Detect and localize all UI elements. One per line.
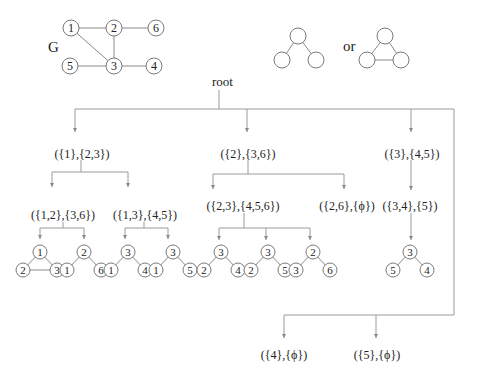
node-id: 5 bbox=[390, 264, 396, 276]
graph-node: 3 bbox=[166, 245, 180, 259]
graph-node: 2 bbox=[77, 245, 91, 259]
node-id: 3 bbox=[170, 246, 176, 258]
graph-g: G 126534 bbox=[48, 20, 164, 74]
arrow-down-icon bbox=[38, 235, 42, 239]
graph-node: 5 bbox=[62, 58, 78, 74]
subgraph-path: 324 bbox=[197, 245, 245, 277]
enumeration-tree-diagram: G 126534 or root bbox=[0, 0, 478, 383]
node-id: 2 bbox=[81, 246, 87, 258]
subgraph-path: 354 bbox=[386, 245, 434, 277]
arrow-down-icon bbox=[217, 236, 221, 240]
node-id: 3 bbox=[265, 246, 271, 258]
graph-node bbox=[393, 52, 409, 68]
graph-node bbox=[359, 52, 375, 68]
node-id: 4 bbox=[151, 59, 157, 73]
subgraph-instances: 123216314315324325236354 bbox=[16, 245, 434, 277]
node-label-4-phi: ({4},{ϕ}) bbox=[261, 348, 307, 362]
arrow-down-icon bbox=[374, 334, 378, 338]
arrow-down-icon bbox=[126, 183, 130, 187]
node-id: 1 bbox=[108, 264, 114, 276]
node-id: 5 bbox=[282, 264, 288, 276]
graph-node: 6 bbox=[148, 20, 164, 36]
node-label-12-36: ({1,2},{3,6}) bbox=[31, 208, 95, 222]
node-label-34-5: ({3,4},{5}) bbox=[382, 199, 437, 213]
level2-labels: ({1,2},{3,6}) ({1,3},{4,5}) ({2,3},{4,5,… bbox=[31, 199, 438, 222]
node-id: 2 bbox=[248, 264, 254, 276]
subgraph-path: 325 bbox=[244, 245, 292, 277]
node-id: 2 bbox=[111, 21, 117, 35]
level1-labels: ({1},{2,3}) ({2},{3,6}) ({3},{4,5}) bbox=[54, 147, 439, 161]
arrow-down-icon bbox=[409, 128, 413, 132]
arrow-down-icon bbox=[409, 236, 413, 240]
leaf-labels: ({4},{ϕ}) ({5},{ϕ}) bbox=[261, 348, 400, 362]
graph-node: 3 bbox=[261, 245, 275, 259]
subgraph-path: 315 bbox=[149, 245, 197, 277]
graph-node bbox=[377, 28, 393, 44]
node-label-2-36: ({2},{3,6}) bbox=[220, 147, 275, 161]
arrow-down-icon bbox=[245, 128, 249, 132]
node-id: 3 bbox=[407, 246, 413, 258]
node-id: 5 bbox=[187, 264, 193, 276]
node-id: 3 bbox=[54, 264, 60, 276]
arrow-down-icon bbox=[123, 235, 127, 239]
arrow-down-icon bbox=[82, 235, 86, 239]
graph-node: 2 bbox=[106, 20, 122, 36]
node-id: 1 bbox=[68, 21, 74, 35]
graph-node bbox=[274, 52, 290, 68]
arrow-down-icon bbox=[166, 235, 170, 239]
node-label-13-45: ({1,3},{4,5}) bbox=[113, 208, 177, 222]
graph-node: 4 bbox=[420, 263, 434, 277]
node-id: 2 bbox=[20, 264, 26, 276]
node-id: 5 bbox=[67, 59, 73, 73]
arrow-down-icon bbox=[409, 186, 413, 190]
graph-node bbox=[290, 28, 306, 44]
arrow-down-icon bbox=[264, 236, 268, 240]
graph-node: 3 bbox=[289, 263, 303, 277]
subgraph-path: 314 bbox=[104, 245, 152, 277]
graph-node: 3 bbox=[403, 245, 417, 259]
node-label-1-23: ({1},{2,3}) bbox=[54, 147, 109, 161]
graph-node: 3 bbox=[121, 245, 135, 259]
subgraph-path: 236 bbox=[289, 245, 337, 277]
graph-node: 5 bbox=[386, 263, 400, 277]
arrow-down-icon bbox=[342, 185, 346, 189]
node-label-26-phi: ({2,6},{ϕ}) bbox=[319, 199, 374, 213]
node-id: 2 bbox=[201, 264, 207, 276]
subgraph-path: 216 bbox=[60, 245, 108, 277]
graph-node: 1 bbox=[60, 263, 74, 277]
graph-node: 1 bbox=[149, 263, 163, 277]
node-id: 6 bbox=[98, 264, 104, 276]
graph-node: 2 bbox=[16, 263, 30, 277]
subgraph-triangle: 123 bbox=[16, 245, 64, 277]
graph-node: 4 bbox=[146, 58, 162, 74]
arrow-down-icon bbox=[50, 183, 54, 187]
root-label: root bbox=[212, 74, 233, 89]
arrow-down-icon bbox=[211, 185, 215, 189]
graph-node: 2 bbox=[244, 263, 258, 277]
node-id: 4 bbox=[424, 264, 430, 276]
graph-node: 5 bbox=[183, 263, 197, 277]
graph-node: 6 bbox=[323, 263, 337, 277]
node-id: 3 bbox=[218, 246, 224, 258]
graph-node: 2 bbox=[197, 263, 211, 277]
graph-label: G bbox=[48, 39, 59, 55]
node-id: 3 bbox=[111, 59, 117, 73]
graph-node: 1 bbox=[104, 263, 118, 277]
node-id: 4 bbox=[142, 264, 148, 276]
node-id: 6 bbox=[153, 21, 159, 35]
node-label-3-45: ({3},{4,5}) bbox=[384, 147, 439, 161]
motif-path-icon bbox=[274, 28, 324, 68]
node-id: 3 bbox=[125, 246, 131, 258]
graph-nodes: 126534 bbox=[62, 20, 164, 74]
tree-connectors bbox=[40, 90, 454, 338]
graph-node: 2 bbox=[306, 245, 320, 259]
arrow-down-icon bbox=[282, 334, 286, 338]
node-label-23-456: ({2,3},{4,5,6}) bbox=[206, 199, 279, 213]
graph-node: 3 bbox=[214, 245, 228, 259]
node-id: 2 bbox=[310, 246, 316, 258]
node-id: 6 bbox=[327, 264, 333, 276]
node-id: 1 bbox=[153, 264, 159, 276]
motif-triangle-icon bbox=[359, 28, 409, 68]
graph-edge bbox=[71, 28, 114, 66]
graph-node: 3 bbox=[106, 58, 122, 74]
